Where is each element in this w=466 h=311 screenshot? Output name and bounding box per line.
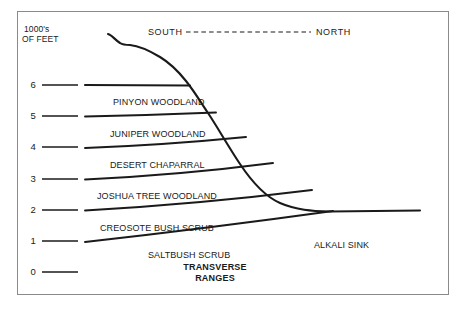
direction-label-north: NORTH: [316, 27, 351, 37]
axis-caption-line-1: 1000's: [24, 24, 49, 35]
axis-tick-marks: [42, 85, 78, 272]
zone-label-alkali-sink: ALKALI SINK: [314, 240, 369, 250]
axis-caption-line-2: OF FEET: [22, 34, 59, 45]
zone-label-juniper-woodland: JUNIPER WOODLAND: [110, 129, 206, 139]
zone-boundary-juniper-woodland: [85, 113, 216, 117]
tick-label-4: 4: [22, 141, 36, 152]
tick-label-6: 6: [22, 79, 36, 90]
tick-label-2: 2: [22, 204, 36, 215]
annotation-transverse: TRANSVERSE: [158, 262, 272, 273]
terrain-profile-line: [108, 34, 420, 212]
tick-label-5: 5: [22, 110, 36, 121]
zone-label-creosote-bush-scrub: CREOSOTE BUSH SCRUB: [100, 223, 214, 233]
zone-label-pinyon-woodland: PINYON WOODLAND: [113, 97, 205, 107]
annotation-ranges: RANGES: [158, 273, 272, 284]
tick-label-3: 3: [22, 173, 36, 184]
tick-label-1: 1: [22, 235, 36, 246]
zone-label-saltbush-scrub: SALTBUSH SCRUB: [148, 250, 230, 260]
tick-label-0: 0: [22, 266, 36, 277]
direction-label-south: SOUTH: [148, 27, 183, 37]
vegetation-zones-cross-section-diagram: 1000's OF FEET 6 5 4 3 2 1 0 SOUTH NORTH…: [0, 0, 466, 311]
zone-label-desert-chaparral: DESERT CHAPARRAL: [110, 160, 205, 170]
zone-boundary-pinyon-woodland: [85, 85, 190, 86]
zone-label-joshua-tree-woodland: JOSHUA TREE WOODLAND: [97, 191, 217, 201]
